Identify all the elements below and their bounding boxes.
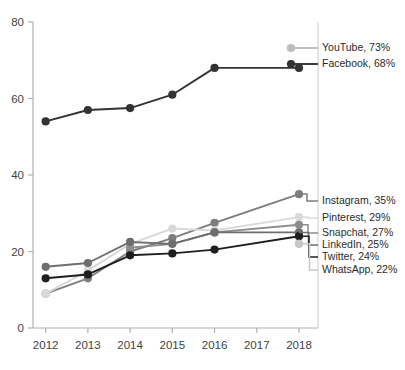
y-tick-label: 20	[11, 246, 24, 258]
legend-label: YouTube, 73%	[322, 41, 390, 53]
legend-label: LinkedIn, 25%	[322, 238, 389, 250]
legend-label: WhatsApp, 22%	[322, 263, 397, 275]
data-point	[168, 249, 176, 257]
chart-canvas: 020406080 2012201320142015201620172018 Y…	[0, 0, 405, 370]
x-tick-label: 2014	[117, 339, 143, 351]
y-tick-label: 0	[18, 322, 24, 334]
data-point	[168, 224, 176, 232]
x-tick-label: 2017	[244, 339, 270, 351]
x-tick-label: 2012	[33, 339, 59, 351]
legend-label: Snapchat, 27%	[322, 226, 393, 238]
x-tick-label: 2016	[202, 339, 228, 351]
legend: YouTube, 73%Facebook, 68%Instagram, 35%P…	[322, 41, 397, 275]
y-tick-label: 40	[11, 169, 24, 181]
legend-label: Facebook, 68%	[322, 57, 395, 69]
legend-marker	[287, 44, 295, 52]
data-point	[168, 91, 176, 99]
data-point	[42, 117, 50, 125]
data-point	[168, 240, 176, 248]
data-point	[210, 219, 218, 227]
legend-marker	[287, 60, 295, 68]
x-tick-label: 2018	[286, 339, 312, 351]
legend-label: Pinterest, 29%	[322, 211, 390, 223]
data-point	[42, 289, 50, 297]
y-tick-label: 80	[11, 16, 24, 28]
data-point	[126, 104, 134, 112]
data-point	[210, 64, 218, 72]
x-axis-ticks: 2012201320142015201620172018	[33, 328, 312, 351]
data-point	[42, 263, 50, 271]
data-point	[126, 251, 134, 259]
data-point	[84, 270, 92, 278]
data-point	[126, 238, 134, 246]
data-point	[295, 64, 303, 72]
legend-label: Twitter, 24%	[322, 250, 379, 262]
y-axis-ticks: 020406080	[11, 16, 33, 334]
data-point	[210, 228, 218, 236]
data-point	[84, 106, 92, 114]
x-tick-label: 2013	[75, 339, 101, 351]
line-chart: 020406080 2012201320142015201620172018 Y…	[0, 0, 405, 370]
legend-leader-lines	[287, 44, 318, 270]
data-point	[84, 259, 92, 267]
data-point	[42, 274, 50, 282]
series-facebook	[42, 64, 304, 126]
x-tick-label: 2015	[160, 339, 186, 351]
y-tick-label: 60	[11, 93, 24, 105]
legend-label: Instagram, 35%	[322, 194, 396, 206]
series-layer	[42, 64, 304, 298]
data-point	[210, 245, 218, 253]
